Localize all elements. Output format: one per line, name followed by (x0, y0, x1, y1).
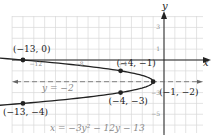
point-marker (21, 58, 26, 63)
point-label: (−13, 0) (13, 44, 50, 54)
dashed-arrow-left-icon (12, 80, 18, 84)
point-marker (118, 68, 123, 73)
point-label: (−13, −4) (3, 107, 48, 117)
y-tick-label: −5 (151, 110, 160, 117)
equation-label: x = −3y² − 12y − 13 (50, 123, 145, 133)
axis-of-symmetry-label: y = −2 (41, 83, 74, 93)
x-tick-label: −12 (29, 60, 42, 67)
annotations: y = −2x = −3y² − 12y − 13 (41, 83, 145, 133)
labeled-points: (−13, 0)(−4, −1)(−1, −2)(−4, −3)(−13, −4… (3, 44, 198, 117)
point-label: (−1, −2) (159, 87, 198, 97)
y-tick-label: 3 (156, 23, 160, 30)
point-marker (118, 90, 123, 95)
parabola-graph: xy (−13, 0)(−4, −1)(−1, −2)(−4, −3)(−13,… (0, 0, 215, 135)
y-tick-label: −3 (151, 89, 160, 96)
dashed-arrow-right-icon (197, 80, 203, 84)
point-label: (−4, −3) (109, 96, 148, 106)
y-axis-arrow-icon (161, 11, 167, 19)
x-tick-label: −8 (75, 60, 84, 67)
x-tick-label: −4 (118, 60, 127, 67)
point-marker (21, 101, 26, 106)
y-axis-label: y (161, 0, 168, 11)
y-tick-label: 1 (156, 45, 160, 52)
x-axis-label: x (203, 57, 209, 68)
point-marker (151, 79, 156, 84)
